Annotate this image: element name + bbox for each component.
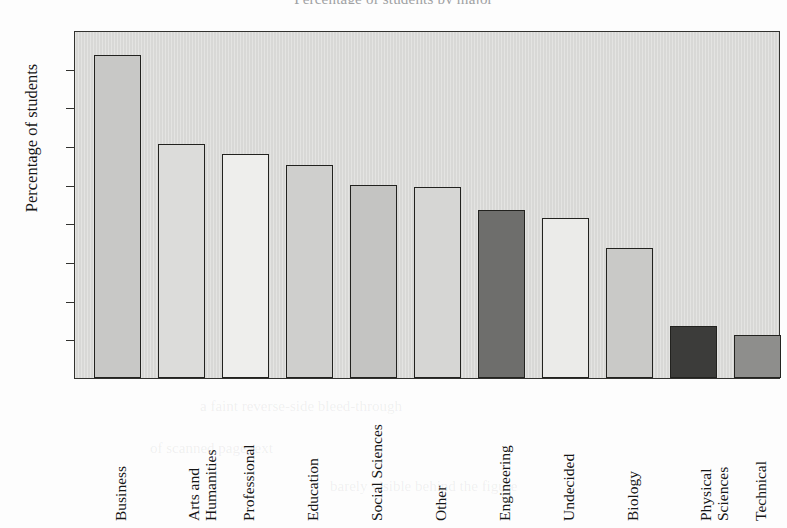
- x-axis-label-text: Undecided: [560, 454, 577, 521]
- chart-title: Percentage of students by major: [0, 0, 787, 4]
- bar: [414, 187, 461, 378]
- x-axis-tick-label: Education: [304, 521, 367, 528]
- plot-area: [74, 31, 780, 379]
- x-axis-label-line: Social Sciences: [368, 424, 385, 521]
- x-axis-label-text: Engineering: [496, 445, 513, 521]
- x-axis-label-text: Education: [304, 458, 321, 521]
- x-axis-labels: BusinessArts andHumanitiesProfessionalEd…: [74, 383, 780, 528]
- bar: [734, 335, 781, 378]
- y-axis-tick: [66, 186, 74, 187]
- x-axis-tick-label: Technical: [752, 521, 787, 528]
- y-axis-tick: [66, 108, 74, 109]
- bars-layer: [75, 32, 779, 378]
- x-axis-tick-label: Other: [432, 521, 467, 528]
- x-axis-tick-label: Undecided: [560, 521, 627, 528]
- x-axis-label-line: Technical: [752, 461, 769, 521]
- x-axis-label-line: Engineering: [496, 445, 513, 521]
- y-axis-tick: [66, 340, 74, 341]
- y-axis-title: Percentage of students: [22, 0, 42, 288]
- y-axis-tick: [66, 302, 74, 303]
- x-axis-label-text: Professional: [240, 444, 257, 521]
- x-axis-label-text: Other: [432, 486, 449, 521]
- bar: [542, 218, 589, 378]
- x-axis-label-line: Professional: [240, 444, 257, 521]
- x-axis-label-line: Other: [432, 486, 449, 521]
- x-axis-label-line: Business: [112, 466, 129, 521]
- y-axis-tick: [66, 224, 74, 225]
- bar-chart: Percentage of students by major a faint …: [0, 0, 787, 528]
- bar: [478, 210, 525, 378]
- x-axis-tick-label: Business: [112, 521, 167, 528]
- x-axis-label-text: Social Sciences: [368, 424, 385, 521]
- bar: [286, 165, 333, 378]
- x-axis-label-line: Humanities: [202, 450, 219, 521]
- x-axis-tick-label: PhysicalSciences: [697, 521, 751, 528]
- y-axis-tick: [66, 147, 74, 148]
- bar: [350, 185, 397, 378]
- bar: [222, 154, 269, 378]
- bar: [94, 55, 141, 378]
- y-axis-tick: [66, 263, 74, 264]
- x-axis-label-line: Education: [304, 458, 321, 521]
- x-axis-label-line: Sciences: [714, 467, 731, 521]
- x-axis-label-line: Biology: [624, 471, 641, 521]
- x-axis-label-text: Arts andHumanities: [185, 450, 219, 521]
- bar: [670, 326, 717, 378]
- x-axis-tick-label: Biology: [624, 521, 674, 528]
- x-axis-label-line: Arts and: [185, 450, 202, 521]
- x-axis-label-text: Technical: [752, 461, 769, 521]
- bar: [158, 144, 205, 378]
- x-axis-label-text: Business: [112, 466, 129, 521]
- x-axis-label-line: Undecided: [560, 454, 577, 521]
- x-axis-label-text: PhysicalSciences: [697, 467, 731, 521]
- y-axis-tick: [66, 70, 74, 71]
- x-axis-label-text: Biology: [624, 471, 641, 521]
- bar: [606, 248, 653, 378]
- x-axis-label-line: Physical: [697, 467, 714, 521]
